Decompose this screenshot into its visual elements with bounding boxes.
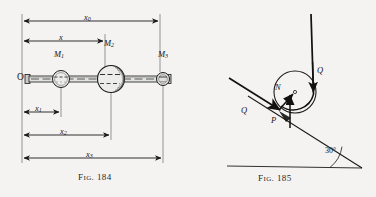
figure-page: O M1 M2 M3 x0 x x1 x2 x3 Q Q N P 30° FIG…: [0, 0, 376, 197]
mass-label-M3-sub: 3: [165, 53, 168, 59]
force-arrow-N: [279, 94, 293, 110]
fig184-witness-lines: [22, 14, 163, 163]
dimension-label-x2: x2: [60, 127, 67, 136]
mass-label-M1: M1: [54, 50, 64, 59]
force-label-Q-incline: Q: [241, 106, 247, 115]
dimension-label-x2-sub: 2: [64, 130, 67, 136]
mass-label-M1-sub: 1: [61, 53, 64, 59]
force-label-N: N: [275, 83, 281, 92]
dimension-label-x1: x1: [35, 104, 42, 113]
figure-caption-185: FIG. 185: [258, 173, 292, 183]
fig184-mass-M3: [157, 73, 170, 86]
dimension-label-x: x: [59, 33, 63, 42]
caption-185-smallcaps: IG: [263, 175, 271, 183]
origin-label-O: O: [17, 73, 24, 83]
dimension-label-x0-sub: 0: [88, 16, 91, 22]
dimension-label-x3-sub: 3: [90, 153, 93, 159]
fig185-incline: [227, 96, 362, 168]
caption-184-smallcaps: IG: [83, 174, 91, 182]
dimension-label-x3: x3: [86, 150, 93, 159]
caption-185-number: . 185: [272, 173, 292, 183]
force-label-Q-vertical: Q: [317, 66, 323, 75]
mass-label-M2: M2: [104, 39, 114, 48]
dimension-label-x1-sub: 1: [39, 107, 42, 113]
fig184-dimension-lines: [24, 21, 161, 158]
caption-184-number: . 184: [92, 172, 112, 182]
incline-base-line: [227, 166, 362, 168]
force-arrow-Q-vertical: [313, 62, 314, 92]
force-label-P: P: [271, 116, 276, 125]
mass-label-M2-sub: 2: [111, 42, 114, 48]
dimension-label-x-text: x: [59, 32, 63, 42]
mass-label-M3: M3: [158, 50, 168, 59]
fig185-cylinder: [274, 71, 316, 113]
figure-caption-184: FIG. 184: [78, 172, 112, 182]
fig184-mass-M1: [53, 71, 70, 88]
cylinder-center-point: [293, 90, 296, 93]
cord-incline: [229, 78, 280, 110]
angle-label-30deg: 30°: [325, 147, 336, 155]
fig184-mass-M2: [98, 66, 125, 93]
dimension-label-x0: x0: [84, 13, 91, 22]
figures-canvas: [0, 0, 376, 197]
